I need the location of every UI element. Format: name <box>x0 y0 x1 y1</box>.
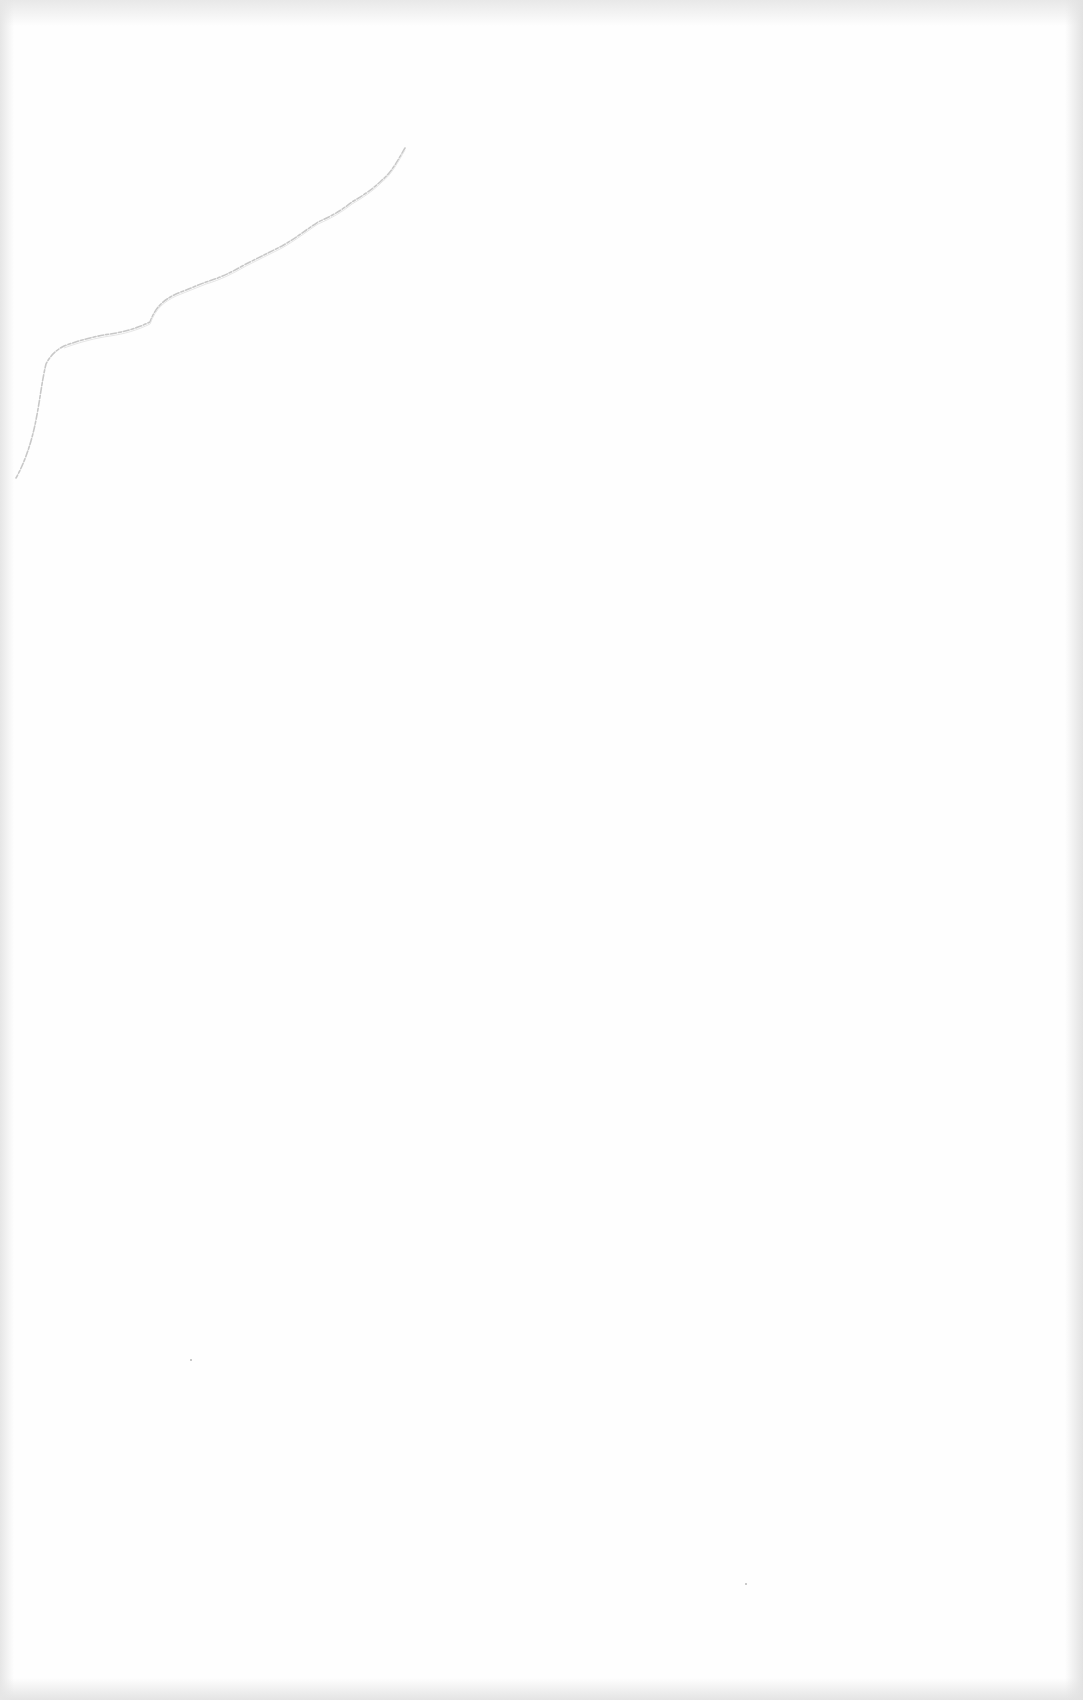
scan-edge-top <box>0 0 1083 26</box>
scan-edge-bottom <box>0 1678 1083 1700</box>
scan-speck <box>190 1359 192 1361</box>
scan-edge-left <box>0 0 14 1700</box>
tear-crease-line <box>0 0 1083 1700</box>
blank-page <box>0 0 1083 1700</box>
scan-speck <box>745 1583 747 1585</box>
scan-edge-right <box>1065 0 1083 1700</box>
